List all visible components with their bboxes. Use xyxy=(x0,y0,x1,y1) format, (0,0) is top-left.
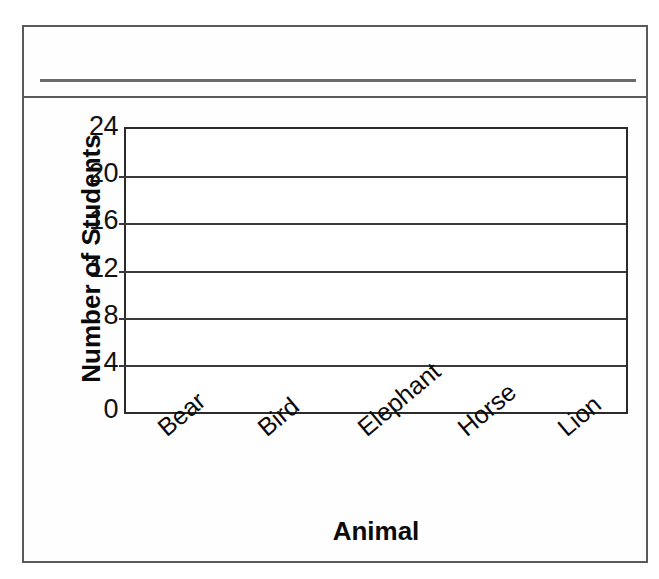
y-axis-tick-label: 16 xyxy=(72,207,118,234)
worksheet-frame: Number of Students 04812162024 BearBirdE… xyxy=(22,25,648,563)
gridline xyxy=(119,318,626,320)
y-axis-tick-label: 24 xyxy=(72,113,118,140)
y-axis-tick-label: 0 xyxy=(72,396,118,423)
plot-area xyxy=(124,127,628,414)
gridline xyxy=(119,365,626,367)
worksheet-title-band xyxy=(24,27,646,98)
y-axis-tick-label: 20 xyxy=(72,160,118,187)
title-write-in-rule xyxy=(40,79,636,82)
gridline xyxy=(119,176,626,178)
gridline xyxy=(119,271,626,273)
y-axis-tick-label: 8 xyxy=(72,302,118,329)
y-axis-tick-label: 4 xyxy=(72,349,118,376)
y-axis-tick-label: 12 xyxy=(72,255,118,282)
bar-chart: Number of Students 04812162024 BearBirdE… xyxy=(24,98,646,561)
x-axis-title: Animal xyxy=(124,516,628,547)
y-axis-tick-labels: 04812162024 xyxy=(70,127,118,414)
gridline xyxy=(119,223,626,225)
